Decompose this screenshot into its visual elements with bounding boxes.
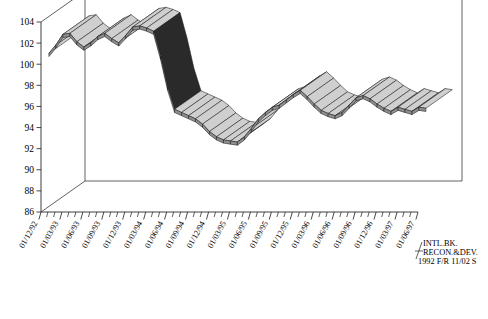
x-tick-minor — [158, 212, 159, 217]
chart-legend: INTL.BK. RECON.&DEV. 1992 F/R 11/02 S — [415, 239, 478, 266]
x-tick-major — [165, 212, 167, 220]
x-tick-label: 01/12/94 — [185, 219, 208, 250]
x-tick-minor — [221, 212, 222, 217]
x-tick-minor — [410, 212, 411, 217]
x-tick-major — [248, 212, 250, 220]
x-tick-label: 01/06/97 — [394, 220, 416, 250]
ribbon-chart: 10410210098969492908886 01/12/9201/03/93… — [0, 0, 488, 319]
x-tick-minor — [361, 212, 362, 217]
x-tick-minor — [179, 212, 180, 217]
x-tick-label: 01/09/94 — [164, 219, 187, 250]
x-tick-label: 01/06/93 — [59, 220, 81, 250]
x-tick-minor — [403, 212, 404, 217]
x-tick-minor — [109, 212, 110, 217]
y-tick-label: 102 — [20, 39, 35, 49]
frame-bottom-left-depth — [41, 181, 85, 212]
x-tick-minor — [368, 212, 369, 217]
x-tick-major — [39, 212, 41, 220]
ribbon-segment-front — [419, 107, 426, 111]
ribbon-segment-front — [49, 45, 56, 57]
y-tick-label: 94 — [25, 123, 35, 133]
x-axis-labels: 01/12/9201/03/9301/06/9301/09/9301/12/93… — [17, 219, 416, 250]
x-tick-minor — [347, 212, 348, 217]
x-tick-minor — [263, 212, 264, 217]
x-tick-minor — [95, 212, 96, 217]
x-tick-minor — [151, 212, 152, 217]
x-tick-minor — [54, 212, 55, 217]
x-tick-label: 01/12/92 — [17, 220, 39, 250]
x-tick-minor — [88, 212, 89, 217]
x-tick-minor — [193, 212, 194, 217]
frame-top-left-depth — [41, 0, 85, 22]
x-tick-major — [186, 212, 188, 220]
x-tick-minor — [214, 212, 215, 217]
x-tick-minor — [284, 212, 285, 217]
x-tick-major — [332, 212, 334, 220]
x-tick-major — [227, 212, 229, 220]
x-tick-major — [123, 212, 125, 220]
data-ribbon — [49, 7, 452, 145]
x-tick-major — [311, 212, 313, 220]
y-tick-label: 88 — [25, 186, 35, 196]
x-tick-major — [60, 212, 62, 220]
chart-container: 10410210098969492908886 01/12/9201/03/93… — [0, 0, 488, 319]
legend-line-3: 1992 F/R 11/02 S — [418, 257, 477, 266]
x-tick-major — [374, 212, 376, 220]
ribbon-segment-front — [272, 105, 279, 110]
x-tick-minor — [200, 212, 201, 217]
x-tick-major — [206, 212, 208, 220]
x-tick-major — [395, 212, 397, 220]
x-tick-minor — [137, 212, 138, 217]
y-axis-ticks — [37, 22, 42, 212]
x-tick-label: 01/03/96 — [290, 220, 312, 250]
x-tick-minor — [326, 212, 327, 217]
ribbon-segment-front — [223, 140, 230, 144]
y-tick-label: 92 — [25, 144, 35, 154]
x-tick-minor — [298, 212, 299, 217]
x-axis-ticks — [39, 212, 418, 220]
x-tick-major — [416, 212, 418, 220]
x-tick-minor — [235, 212, 236, 217]
x-tick-label: 01/12/96 — [352, 220, 374, 250]
x-tick-minor — [242, 212, 243, 217]
x-tick-major — [353, 212, 355, 220]
x-tick-minor — [130, 212, 131, 217]
x-tick-minor — [382, 212, 383, 217]
ribbon-segment-front — [133, 26, 140, 30]
x-tick-minor — [116, 212, 117, 217]
legend-line-2: RECON.&DEV. — [423, 248, 478, 257]
x-tick-major — [144, 212, 146, 220]
x-tick-label: 01/03/94 — [122, 219, 145, 250]
x-tick-minor — [319, 212, 320, 217]
y-tick-label: 86 — [25, 207, 35, 217]
y-tick-label: 90 — [25, 165, 35, 175]
x-tick-major — [269, 212, 271, 220]
x-tick-label: 01/09/95 — [248, 220, 270, 250]
y-axis-labels: 10410210098969492908886 — [20, 17, 35, 217]
y-tick-label: 98 — [25, 81, 35, 91]
x-tick-label: 01/09/93 — [80, 220, 102, 250]
y-tick-label: 104 — [20, 17, 35, 27]
x-tick-label: 01/09/96 — [332, 220, 354, 250]
x-tick-minor — [172, 212, 173, 217]
x-tick-label: 01/03/93 — [38, 220, 60, 250]
x-tick-major — [290, 212, 292, 220]
y-tick-label: 100 — [20, 60, 35, 70]
x-tick-minor — [68, 212, 69, 217]
x-tick-label: 01/12/93 — [101, 220, 123, 250]
x-tick-minor — [75, 212, 76, 217]
x-tick-label: 01/06/96 — [311, 220, 333, 250]
x-tick-label: 01/12/95 — [269, 220, 291, 250]
x-tick-label: 01/03/95 — [206, 220, 228, 250]
y-tick-label: 96 — [25, 102, 35, 112]
x-tick-label: 01/06/95 — [227, 220, 249, 250]
legend-line-1: INTL.BK. — [423, 239, 458, 248]
x-tick-major — [102, 212, 104, 220]
ribbon-segment-front — [230, 141, 237, 145]
x-tick-minor — [277, 212, 278, 217]
x-tick-major — [81, 212, 83, 220]
x-tick-minor — [340, 212, 341, 217]
x-tick-minor — [305, 212, 306, 217]
ribbon-segment-front — [63, 33, 70, 37]
x-tick-minor — [47, 212, 48, 217]
